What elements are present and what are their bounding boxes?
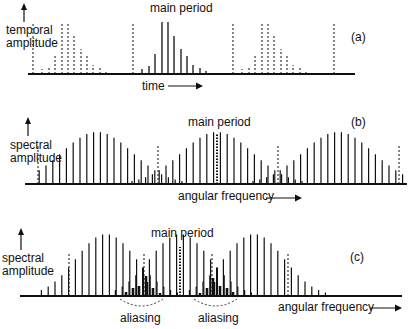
panel-c-title: main period bbox=[151, 227, 214, 240]
panel-b-tag: (b) bbox=[351, 115, 366, 129]
panel-c-xlabel: angular frequency bbox=[278, 301, 374, 314]
panel-c-tag: (c) bbox=[350, 250, 364, 264]
panel-b-y-axis-arrow-head bbox=[25, 117, 31, 124]
panel-a-xlabel: time bbox=[142, 80, 165, 93]
aliasing-arc-left bbox=[120, 299, 163, 306]
aliasing-label-right: aliasing bbox=[198, 312, 239, 325]
panel-a-time-arrow-head bbox=[196, 83, 203, 90]
panel-c-ylabel-line2: amplitude bbox=[2, 265, 54, 278]
panel-b-title: main period bbox=[188, 116, 251, 129]
panel-b-xlabel: angular frequency bbox=[178, 190, 274, 203]
panel-b-frequency-arrow-head bbox=[295, 195, 302, 202]
panel-b-ylabel-line2: amplitude bbox=[10, 152, 62, 165]
aliasing-arc-right bbox=[194, 299, 237, 306]
panel-a-tag: (a) bbox=[351, 30, 366, 44]
aliasing-label-left: aliasing bbox=[120, 312, 161, 325]
panel-c-y-axis-arrow-head bbox=[18, 228, 24, 235]
panel-a-y-axis-arrow-head bbox=[21, 3, 27, 10]
panel-c-frequency-arrow-head bbox=[395, 305, 402, 312]
panel-a-ylabel-line2: amplitude bbox=[6, 37, 58, 50]
panel-a-title: main period bbox=[150, 2, 213, 15]
